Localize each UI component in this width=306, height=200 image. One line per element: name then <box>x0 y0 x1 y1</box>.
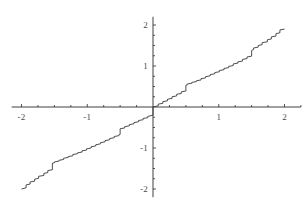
y-tick-label: 1 <box>137 62 148 71</box>
y-tick-label: -1 <box>137 144 148 153</box>
x-tick-label: 2 <box>282 113 287 122</box>
x-tick-label: -2 <box>18 113 26 122</box>
y-tick-label: -2 <box>137 185 148 194</box>
y-tick-label: 2 <box>137 21 148 30</box>
plot-canvas <box>0 0 306 200</box>
axes-group <box>12 17 301 197</box>
x-tick-label: -1 <box>83 113 91 122</box>
x-tick-label: 1 <box>216 113 221 122</box>
chart-figure: -2-11221-1-2 <box>0 0 306 200</box>
